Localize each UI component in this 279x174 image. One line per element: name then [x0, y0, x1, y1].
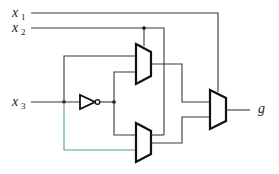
wire-x3-mux2-in1: [64, 102, 136, 150]
wire-mux2-out: [151, 117, 210, 143]
output-label-g: g: [258, 101, 265, 116]
wire-inv-mux1-in1: [114, 72, 136, 102]
input-label-x3: x: [11, 94, 19, 109]
junction-x2: [142, 26, 146, 30]
wire-mux1-out: [151, 64, 210, 102]
mux1: [136, 44, 151, 84]
input-subscript-x3: 3: [21, 101, 26, 111]
mux3: [210, 90, 226, 129]
mux2: [136, 123, 151, 162]
input-subscript-x2: 2: [21, 27, 26, 37]
input-subscript-x1: 1: [21, 12, 26, 22]
inverter-bubble: [95, 100, 100, 105]
input-label-x1: x: [11, 5, 19, 20]
input-label-x2: x: [11, 20, 19, 35]
wire-inv-mux2-in0: [114, 102, 136, 135]
wire-x3-mux1-in0: [64, 56, 136, 102]
circuit-diagram: x 1 x 2 x 3 g: [0, 0, 279, 174]
inverter-gate: [80, 95, 95, 109]
wire-x1: [31, 13, 218, 92]
